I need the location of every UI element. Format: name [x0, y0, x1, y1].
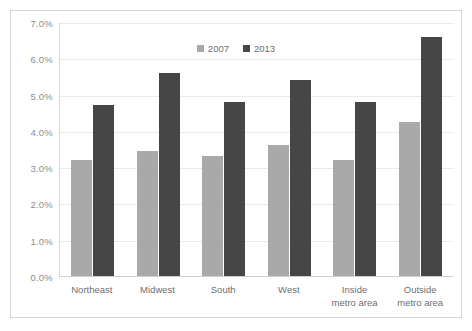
- x-axis-category-label: West: [256, 279, 322, 319]
- x-axis-category-line: metro area: [322, 297, 388, 310]
- y-axis-tick-label: 6.0%: [31, 54, 53, 65]
- x-axis-category-label: Insidemetro area: [322, 279, 388, 319]
- bar-group: [126, 23, 192, 276]
- y-axis-tick-label: 3.0%: [31, 163, 53, 174]
- bar-group: [257, 23, 323, 276]
- bar-2013: [93, 105, 114, 276]
- y-axis-tick-label: 2.0%: [31, 199, 53, 210]
- bar-group: [388, 23, 454, 276]
- x-axis-category-line: Midwest: [125, 284, 191, 297]
- bar-2013: [421, 37, 442, 276]
- bar-2007: [333, 160, 354, 276]
- y-axis-tick-label: 1.0%: [31, 235, 53, 246]
- x-axis-category-line: Northeast: [59, 284, 125, 297]
- y-axis-tick-label: 5.0%: [31, 90, 53, 101]
- bar-2007: [71, 160, 92, 276]
- y-axis-tick-label: 4.0%: [31, 126, 53, 137]
- plot-area: [59, 23, 453, 277]
- bar-2007: [137, 151, 158, 276]
- chart-container: 2007 2013 0.0%1.0%2.0%3.0%4.0%5.0%6.0%7.…: [10, 10, 462, 318]
- x-axis-category-line: Outside: [387, 284, 453, 297]
- bar-2013: [159, 73, 180, 276]
- x-axis-category-line: South: [190, 284, 256, 297]
- bar-2007: [399, 122, 420, 276]
- x-axis-category-line: metro area: [387, 297, 453, 310]
- x-axis-category-label: South: [190, 279, 256, 319]
- bar-group: [60, 23, 126, 276]
- bar-2013: [290, 80, 311, 276]
- bar-2013: [355, 102, 376, 276]
- bar-group: [191, 23, 257, 276]
- x-axis-category-label: Midwest: [125, 279, 191, 319]
- bar-group: [322, 23, 388, 276]
- x-axis-category-label: Northeast: [59, 279, 125, 319]
- x-axis-category-line: West: [256, 284, 322, 297]
- bars-layer: [60, 23, 453, 276]
- x-axis-category-label: Outsidemetro area: [387, 279, 453, 319]
- bar-2007: [268, 145, 289, 276]
- y-axis: 0.0%1.0%2.0%3.0%4.0%5.0%6.0%7.0%: [11, 23, 59, 277]
- y-axis-tick-label: 0.0%: [31, 272, 53, 283]
- y-axis-tick-label: 7.0%: [31, 18, 53, 29]
- bar-2013: [224, 102, 245, 276]
- plot-wrapper: 2007 2013 0.0%1.0%2.0%3.0%4.0%5.0%6.0%7.…: [11, 11, 461, 317]
- x-axis: NortheastMidwestSouthWestInsidemetro are…: [59, 279, 453, 319]
- x-axis-category-line: Inside: [322, 284, 388, 297]
- bar-2007: [202, 156, 223, 276]
